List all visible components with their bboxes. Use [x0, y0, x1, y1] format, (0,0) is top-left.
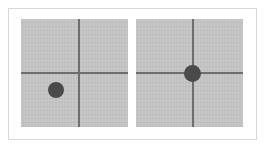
figure-canvas [0, 0, 266, 148]
left-panel-horizontal-crosshair-line [21, 72, 128, 74]
right-panel [136, 19, 243, 127]
left-panel [21, 19, 128, 127]
right-panel-target-dot [184, 65, 201, 82]
left-panel-target-dot [48, 82, 64, 98]
